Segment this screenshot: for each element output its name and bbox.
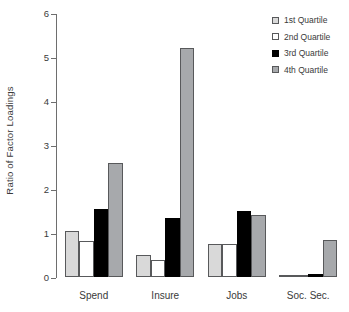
x-axis-group-label: Insure	[151, 290, 179, 301]
y-tick-label: 6	[44, 9, 49, 19]
bar	[279, 275, 294, 277]
x-axis-group-label: Spend	[79, 290, 108, 301]
bar	[222, 244, 237, 277]
y-tick-label: 3	[44, 141, 49, 151]
y-tick-mark	[51, 234, 56, 235]
y-axis-line	[56, 14, 57, 278]
y-tick-label: 0	[44, 273, 49, 283]
bar-group: Jobs	[208, 13, 266, 277]
legend-item[interactable]: 4th Quartile	[272, 63, 349, 77]
y-tick-label: 1	[44, 229, 49, 239]
y-tick-label: 5	[44, 53, 49, 63]
legend-item-label: 1st Quartile	[284, 15, 327, 25]
y-tick-mark	[51, 190, 56, 191]
bar	[108, 163, 123, 277]
light-gray-swatch	[272, 17, 279, 24]
legend-item-label: 4th Quartile	[284, 65, 328, 75]
y-tick-mark	[51, 278, 56, 279]
x-axis-group-label: Soc. Sec.	[287, 290, 330, 301]
y-tick-label: 2	[44, 185, 49, 195]
bar	[65, 231, 80, 277]
y-tick-mark	[51, 146, 56, 147]
y-axis-title: Ratio of Factor Loadings	[0, 0, 18, 280]
medium-gray-swatch	[272, 66, 279, 73]
y-tick-mark	[51, 58, 56, 59]
x-axis-group-label: Jobs	[226, 290, 247, 301]
y-tick-mark	[51, 102, 56, 103]
bar	[251, 215, 266, 277]
bar	[79, 241, 94, 277]
bar	[308, 274, 323, 277]
bar-chart-figure: Ratio of Factor Loadings 0123456 SpendIn…	[0, 0, 349, 312]
bar-group: Spend	[65, 13, 123, 277]
y-axis-title-label: Ratio of Factor Loadings	[4, 86, 15, 194]
y-tick-label: 4	[44, 97, 49, 107]
bar	[208, 244, 223, 277]
bar-group: Insure	[136, 13, 194, 277]
legend-item[interactable]: 2nd Quartile	[272, 30, 349, 44]
bar	[237, 211, 252, 277]
bar	[136, 255, 151, 277]
legend-item[interactable]: 3rd Quartile	[272, 46, 349, 60]
legend: 1st Quartile2nd Quartile3rd Quartile4th …	[272, 13, 349, 79]
white-swatch	[272, 33, 279, 40]
bar	[294, 275, 309, 277]
legend-item[interactable]: 1st Quartile	[272, 13, 349, 27]
black-swatch	[272, 50, 279, 57]
legend-item-label: 3rd Quartile	[284, 48, 328, 58]
bar	[151, 260, 166, 277]
legend-item-label: 2nd Quartile	[284, 32, 330, 42]
bar	[323, 240, 338, 277]
bar	[165, 218, 180, 277]
y-tick-mark	[51, 14, 56, 15]
bar	[180, 48, 195, 277]
bar	[94, 209, 109, 277]
